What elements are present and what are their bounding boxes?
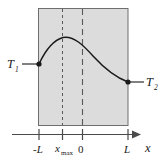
x-axis-arrowhead xyxy=(132,131,141,139)
temperature-profile-figure: T 1 T 2 -L x max 0 L x xyxy=(0,0,165,166)
t2-subscript: 2 xyxy=(154,83,158,92)
slab-rectangle xyxy=(39,9,129,126)
tick-label-minus-l: -L xyxy=(33,143,43,155)
t2-label: T xyxy=(146,75,154,89)
tick-label-x-max-subscript: max xyxy=(61,149,74,157)
tick-label-zero: 0 xyxy=(78,143,84,155)
t1-subscript: 1 xyxy=(15,65,19,74)
x-axis-label: x xyxy=(144,141,151,155)
figure-canvas: T 1 T 2 -L x max 0 L x xyxy=(0,0,165,166)
t1-label: T xyxy=(7,57,15,71)
tick-label-x-max-base: x xyxy=(54,142,60,154)
tick-label-l: L xyxy=(123,143,130,155)
